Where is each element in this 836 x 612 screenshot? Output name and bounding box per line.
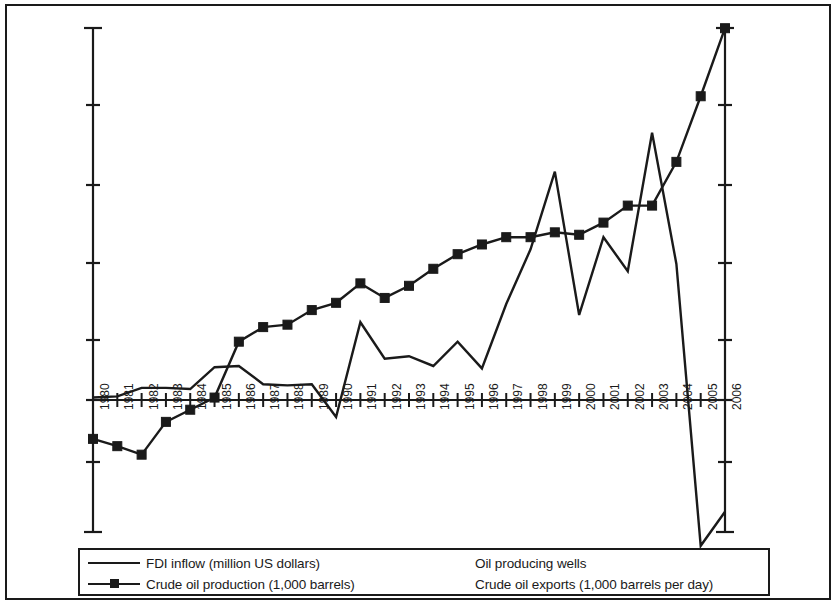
line-swatch-icon — [88, 556, 140, 570]
line-chart-plot — [0, 0, 836, 612]
series-marker-square — [648, 201, 657, 210]
series-marker-square — [550, 228, 559, 237]
line-square-marker-swatch-icon — [88, 577, 140, 591]
x-tick-label-2004: 2004 — [681, 383, 695, 410]
x-tick-label-2001: 2001 — [608, 383, 622, 410]
x-tick-label-2000: 2000 — [584, 383, 598, 410]
x-tick-label-1986: 1986 — [244, 383, 258, 410]
series-marker-square — [477, 240, 486, 249]
series-marker-square — [380, 293, 389, 302]
series-marker-square — [332, 298, 341, 307]
series-marker-square — [672, 157, 681, 166]
x-tick-label-2005: 2005 — [706, 383, 720, 410]
x-tick-label-1988: 1988 — [292, 383, 306, 410]
x-tick-label-1998: 1998 — [536, 383, 550, 410]
x-tick-label-1983: 1983 — [171, 383, 185, 410]
x-tick-label-2003: 2003 — [657, 383, 671, 410]
x-tick-label-1994: 1994 — [438, 383, 452, 410]
x-tick-label-1995: 1995 — [463, 383, 477, 410]
legend-item-oil-producing-wells: Oil producing wells — [475, 552, 765, 574]
series-marker-square — [623, 201, 632, 210]
series-marker-square — [137, 450, 146, 459]
series-marker-square — [721, 24, 730, 33]
x-tick-label-1985: 1985 — [220, 383, 234, 410]
x-tick-label-1992: 1992 — [390, 383, 404, 410]
chart-axes — [84, 28, 734, 532]
legend-row: FDI inflow (million US dollars) Oil prod… — [80, 552, 768, 574]
x-tick-label-2006: 2006 — [730, 383, 744, 410]
series-line-fdi-inflow — [93, 133, 725, 546]
legend-item-crude-oil-exports: Crude oil exports (1,000 barrels per day… — [475, 573, 765, 595]
series-marker-square — [453, 250, 462, 259]
series-marker-square — [575, 230, 584, 239]
series-marker-square — [599, 218, 608, 227]
legend-item-crude-oil-production: Crude oil production (1,000 barrels) — [88, 573, 468, 595]
x-tick-label-1987: 1987 — [268, 383, 282, 410]
series-line-crude-oil-production — [93, 28, 725, 454]
series-marker-square — [502, 233, 511, 242]
series-marker-square — [307, 306, 316, 315]
x-tick-label-1997: 1997 — [511, 383, 525, 410]
series-marker-square — [113, 442, 122, 451]
chart-series — [89, 24, 730, 546]
series-marker-square — [186, 405, 195, 414]
x-tick-label-1989: 1989 — [317, 383, 331, 410]
legend-item-label: Oil producing wells — [475, 556, 586, 571]
series-marker-square — [210, 393, 219, 402]
x-tick-label-2002: 2002 — [633, 383, 647, 410]
series-marker-square — [405, 281, 414, 290]
series-marker-square — [259, 323, 268, 332]
x-tick-label-1990: 1990 — [341, 383, 355, 410]
series-marker-square — [234, 337, 243, 346]
legend-item-label: Crude oil exports (1,000 barrels per day… — [475, 577, 713, 592]
series-marker-square — [89, 434, 98, 443]
chart-page: 1980198119821983198419851986198719881989… — [0, 0, 836, 612]
x-tick-label-1981: 1981 — [122, 383, 136, 410]
series-marker-square — [526, 233, 535, 242]
x-tick-label-1993: 1993 — [414, 383, 428, 410]
series-marker-square — [161, 417, 170, 426]
x-tick-label-1999: 1999 — [560, 383, 574, 410]
x-tick-label-1984: 1984 — [195, 383, 209, 410]
series-marker-square — [696, 92, 705, 101]
series-marker-square — [429, 264, 438, 273]
x-tick-label-1980: 1980 — [98, 383, 112, 410]
x-tick-label-1991: 1991 — [365, 383, 379, 410]
legend-item-label: FDI inflow (million US dollars) — [146, 556, 320, 571]
series-marker-square — [356, 279, 365, 288]
x-tick-label-1996: 1996 — [487, 383, 501, 410]
legend-item-label: Crude oil production (1,000 barrels) — [146, 577, 355, 592]
series-marker-square — [283, 320, 292, 329]
chart-legend: FDI inflow (million US dollars) Oil prod… — [78, 548, 770, 596]
legend-row: Crude oil production (1,000 barrels) Cru… — [80, 573, 768, 595]
x-tick-label-1982: 1982 — [147, 383, 161, 410]
legend-item-fdi-inflow: FDI inflow (million US dollars) — [88, 552, 468, 574]
